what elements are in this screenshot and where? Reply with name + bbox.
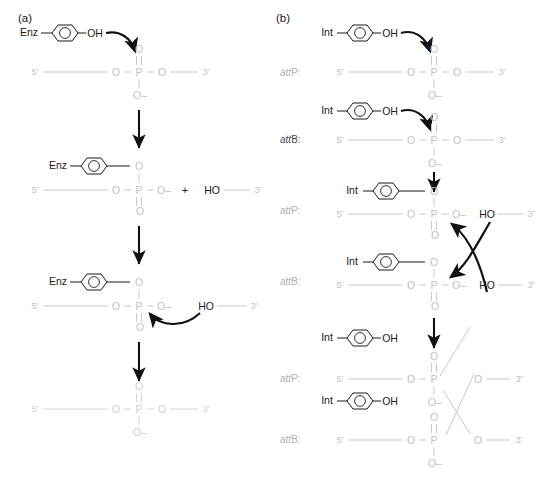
site-label-attb: attB: (280, 134, 301, 145)
bridging-oxygen-left: O (112, 66, 120, 78)
bridging-oxygen-left: O (407, 279, 415, 291)
plus-sign: + (182, 184, 188, 196)
phosphorus-atom: P (135, 184, 142, 196)
five-prime-label: 5' (31, 403, 38, 414)
free-hydroxyl-label: HO (479, 208, 495, 220)
five-prime-label: 5' (336, 279, 343, 290)
phosphoryl-oxygen-anion: O– (452, 279, 466, 291)
enzyme-hydroxyl-label: OH (382, 332, 398, 344)
bridging-oxygen-left: O (407, 208, 415, 220)
site-label-attb: attB: (280, 276, 301, 287)
phosphoryl-oxygen-anion: O– (157, 300, 171, 312)
bridging-oxygen-left: O (112, 184, 120, 196)
bridging-oxygen-left: O (407, 373, 415, 385)
bridging-oxygen-right: O (474, 434, 482, 446)
three-prime-label: 3' (515, 373, 522, 384)
five-prime-label: 5' (31, 300, 38, 311)
bridging-oxygen-left: O (112, 300, 120, 312)
bridging-oxygen-left: O (407, 434, 415, 446)
phosphoryl-oxygen-anion: O– (428, 157, 442, 169)
phosphoryl-oxygen-top: O (135, 43, 143, 55)
enzyme-hydroxyl-label: OH (87, 27, 103, 39)
five-prime-label: 5' (31, 184, 38, 195)
five-prime-label: 5' (336, 66, 343, 77)
three-prime-label: 3' (250, 300, 257, 311)
bridging-oxygen-left: O (407, 66, 415, 78)
ester-linkage-oxygen: O (135, 160, 143, 172)
phosphorus-atom: P (430, 134, 437, 146)
enzyme-label: Enz (20, 26, 38, 38)
enzyme-label: Enz (49, 159, 67, 171)
phosphorus-atom: P (430, 279, 437, 291)
phosphorus-atom: P (135, 300, 142, 312)
phosphorus-atom: P (135, 403, 142, 415)
phosphoryl-oxygen-top: O (135, 380, 143, 392)
ester-linkage-oxygen: O (135, 276, 143, 288)
site-label-attp: attP: (280, 67, 301, 78)
figure-canvas: (a) Enz OH 5' O P O (0, 0, 544, 480)
ester-linkage-oxygen: O (430, 256, 438, 268)
phosphoryl-oxygen-anion: O– (428, 89, 442, 101)
site-label-attp: attP: (280, 373, 301, 384)
bridging-oxygen-right: O (474, 373, 482, 385)
phosphorus-atom: P (430, 373, 437, 385)
free-hydroxyl-label: HO (204, 184, 220, 196)
panel-a-label: (a) (18, 12, 32, 24)
three-prime-label: 3' (527, 208, 534, 219)
bridging-oxygen-right: O (158, 66, 166, 78)
bridging-oxygen-right: O (158, 403, 166, 415)
enzyme-label: Int (321, 26, 333, 38)
phosphoryl-oxygen-top: O (430, 43, 438, 55)
bridging-oxygen-right: O (453, 66, 461, 78)
enzyme-hydroxyl-label: OH (382, 105, 398, 117)
bridging-oxygen-left: O (407, 134, 415, 146)
phosphoryl-oxygen-bottom: O (136, 321, 144, 333)
enzyme-label: Int (321, 331, 333, 343)
phosphorus-atom: P (135, 66, 142, 78)
phosphoryl-oxygen-top: O (430, 350, 438, 362)
five-prime-label: 5' (31, 66, 38, 77)
phosphoryl-oxygen-anion: O– (157, 184, 171, 196)
three-prime-label: 3' (254, 184, 261, 195)
three-prime-label: 3' (498, 66, 505, 77)
enzyme-label: Enz (49, 275, 67, 287)
three-prime-label: 3' (202, 66, 209, 77)
phosphoryl-oxygen-anion: O– (428, 396, 442, 408)
phosphoryl-oxygen-anion: O– (133, 89, 147, 101)
enzyme-label: Int (321, 394, 333, 406)
three-prime-label: 3' (202, 403, 209, 414)
site-label-attp: attP: (280, 205, 301, 216)
three-prime-label: 3' (515, 434, 522, 445)
phosphoryl-oxygen-anion: O– (452, 208, 466, 220)
five-prime-label: 5' (336, 434, 343, 445)
enzyme-label: Int (346, 255, 358, 267)
phosphoryl-oxygen-bottom: O (431, 229, 439, 241)
phosphorus-atom: P (430, 66, 437, 78)
phosphorus-atom: P (430, 208, 437, 220)
panel-b-label: (b) (276, 12, 290, 24)
phosphoryl-oxygen-top: O (430, 111, 438, 123)
enzyme-hydroxyl-label: OH (382, 395, 398, 407)
free-hydroxyl-label: HO (198, 300, 214, 312)
five-prime-label: 5' (336, 134, 343, 145)
enzyme-hydroxyl-label: OH (382, 27, 398, 39)
three-prime-label: 3' (498, 134, 505, 145)
ester-linkage-oxygen: O (430, 185, 438, 197)
reaction-mechanism-diagram: (a) Enz OH 5' O P O (0, 0, 544, 480)
phosphoryl-oxygen-bottom: O (136, 205, 144, 217)
five-prime-label: 5' (336, 208, 343, 219)
phosphoryl-oxygen-anion: O– (133, 426, 147, 438)
five-prime-label: 5' (336, 373, 343, 384)
three-prime-label: 3' (527, 279, 534, 290)
phosphorus-atom: P (430, 434, 437, 446)
bridging-oxygen-right: O (453, 134, 461, 146)
phosphoryl-oxygen-anion: O– (428, 457, 442, 469)
phosphoryl-oxygen-bottom: O (431, 300, 439, 312)
enzyme-label: Int (346, 184, 358, 196)
phosphoryl-oxygen-top: O (430, 411, 438, 423)
bridging-oxygen-left: O (112, 403, 120, 415)
enzyme-label: Int (321, 104, 333, 116)
site-label-attb: attB: (280, 434, 301, 445)
